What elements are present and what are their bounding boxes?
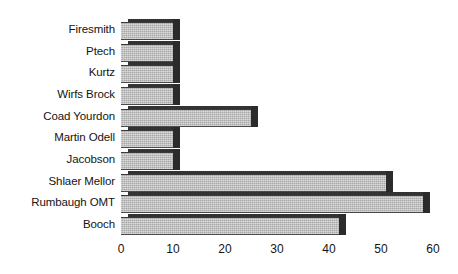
category-label: Kurtz [0,66,115,78]
bar [121,213,346,235]
bar-front-face [121,152,173,170]
category-label: Firesmith [0,23,115,35]
bar-front-face [121,65,173,83]
bar-front-face [121,44,173,62]
bar-end-cap [251,106,258,127]
bar-front-face [121,217,339,235]
category-label: Martin Odell [0,131,115,143]
bar-end-cap [173,84,180,105]
x-tick-label: 30 [270,242,283,256]
bar-front-face [121,195,423,213]
x-tick-label: 40 [322,242,335,256]
bar-chart: FiresmithPtechKurtzWirfs BrockCoad Yourd… [0,0,458,274]
x-tick-label: 0 [118,242,125,256]
bar-front-face [121,87,173,105]
category-label: Shlaer Mellor [0,175,115,187]
bar-end-cap [173,127,180,148]
bar-end-cap [386,171,393,192]
category-label: Rumbaugh OMT [0,196,115,208]
bar-front-face [121,130,173,148]
category-label: Jacobson [0,153,115,165]
x-tick-label: 10 [166,242,179,256]
bar [121,40,180,62]
plot-area [121,18,458,235]
bar-end-cap [423,192,430,213]
bar-front-face [121,22,173,40]
bar-end-cap [173,149,180,170]
bar [121,170,393,192]
bar [121,192,430,214]
category-label: Booch [0,218,115,230]
bar [121,61,180,83]
x-tick-label: 60 [426,242,439,256]
bar [121,105,258,127]
bar-end-cap [173,62,180,83]
bar-end-cap [173,19,180,40]
bar [121,18,180,40]
bar [121,148,180,170]
bar-end-cap [173,41,180,62]
bar-end-cap [339,214,346,235]
bar-front-face [121,174,386,192]
bar [121,127,180,149]
category-axis: FiresmithPtechKurtzWirfs BrockCoad Yourd… [0,18,115,235]
x-tick-label: 20 [218,242,231,256]
bar [121,83,180,105]
category-label: Coad Yourdon [0,110,115,122]
bar-front-face [121,109,251,127]
x-tick-label: 50 [374,242,387,256]
category-label: Ptech [0,45,115,57]
x-axis: 0102030405060 [121,236,458,274]
category-label: Wirfs Brock [0,88,115,100]
